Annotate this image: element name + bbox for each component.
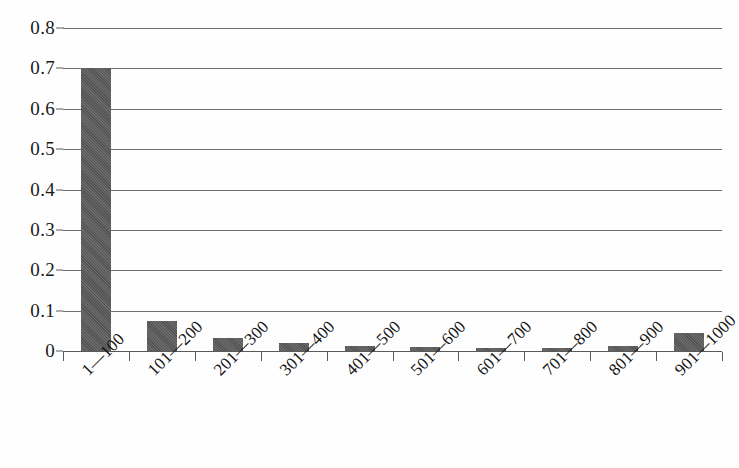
gridline — [63, 68, 722, 69]
x-tick-mark — [261, 352, 262, 361]
y-tick-label: 0.8 — [30, 17, 55, 39]
x-tick-mark — [458, 352, 459, 361]
gridline — [63, 149, 722, 150]
y-tick-label: 0.6 — [30, 98, 55, 120]
gridline — [63, 311, 722, 312]
x-tick-mark — [590, 352, 591, 361]
gridline — [63, 190, 722, 191]
x-tick-mark — [129, 352, 130, 361]
plot-area — [63, 28, 722, 351]
y-tick-label: 0.5 — [30, 138, 55, 160]
gridline — [63, 28, 722, 29]
x-tick-mark — [524, 352, 525, 361]
gridline — [63, 230, 722, 231]
x-tick-mark — [393, 352, 394, 361]
x-tick-mark — [63, 352, 64, 361]
y-tick-label: 0.4 — [30, 179, 55, 201]
chart-canvas: 0.80.70.60.50.40.30.20.10 1—100101—20020… — [0, 0, 739, 468]
y-tick-label: 0.2 — [30, 259, 55, 281]
y-tick-label: 0.1 — [30, 300, 55, 322]
gridline — [63, 270, 722, 271]
x-tick-mark — [195, 352, 196, 361]
x-tick-mark — [327, 352, 328, 361]
x-tick-mark — [722, 352, 723, 361]
bar — [81, 68, 111, 351]
y-tick-label: 0.3 — [30, 219, 55, 241]
y-axis-labels: 0.80.70.60.50.40.30.20.10 — [0, 0, 55, 468]
x-tick-mark — [656, 352, 657, 361]
y-tick-label: 0.7 — [30, 57, 55, 79]
y-tick-label: 0 — [45, 340, 55, 362]
gridline — [63, 109, 722, 110]
